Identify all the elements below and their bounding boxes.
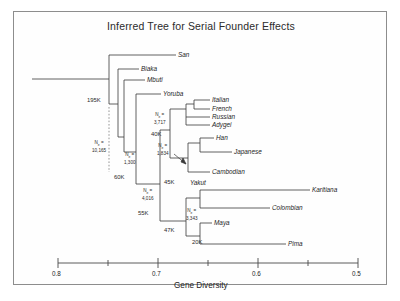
ne-value-4016: 4,016 — [142, 196, 154, 201]
axis-tick-0-6: 0.6 — [252, 271, 261, 277]
tree-plot: Inferred Tree for Serial Founder Effects — [14, 12, 388, 286]
taxon-label-russian: Russian — [212, 114, 235, 120]
taxon-label-japanese: Japanese — [234, 149, 262, 155]
ne-annotation-3717: Ne =3,717 — [154, 112, 166, 125]
divergence-time-40k: 40K — [151, 132, 161, 138]
ne-annotation-3343: Ne =3,343 — [186, 208, 198, 221]
ne-annotation-1834: Ne =1,834 — [157, 143, 169, 156]
ne-annotation-4016: Ne =4,016 — [142, 188, 154, 201]
ne-annotation-1300: Ne =1,300 — [124, 152, 136, 165]
taxon-label-adygei: Adygei — [212, 122, 232, 128]
divergence-time-195k: 195K — [87, 98, 101, 104]
ne-value-3717: 3,717 — [154, 120, 166, 125]
ne-value-3343: 3,343 — [186, 216, 198, 221]
taxon-label-yoruba: Yoruba — [163, 91, 183, 97]
divergence-time-45k: 45K — [164, 180, 174, 186]
taxon-label-maya: Maya — [214, 220, 230, 226]
ne-value-1300: 1,300 — [124, 160, 136, 165]
divergence-time-60k: 60K — [114, 175, 124, 181]
taxon-label-san: San — [178, 52, 189, 58]
axis-title: Gene Diversity — [174, 282, 228, 290]
taxon-label-italian: Italian — [212, 97, 229, 103]
divergence-time-47k: 47K — [164, 228, 174, 234]
taxon-label-mbuti: Mbuti — [147, 77, 163, 83]
ne-value-10165: 10,165 — [92, 148, 106, 153]
taxon-label-colombian: Colombian — [272, 205, 303, 211]
ne-annotation-10165: Ne =10,165 — [92, 140, 106, 153]
figure-frame: Inferred Tree for Serial Founder Effects — [13, 11, 387, 285]
taxon-label-pima: Pima — [288, 241, 303, 247]
taxon-label-karitiana: Karitiana — [312, 187, 337, 193]
taxon-label-cambodian: Cambodian — [212, 169, 245, 175]
taxon-label-french: French — [212, 106, 232, 112]
axis-tick-0-8: 0.8 — [52, 271, 61, 277]
divergence-time-20k: 20K — [192, 240, 202, 246]
axis-tick-0-7: 0.7 — [152, 271, 161, 277]
taxon-label-yakut: Yakut — [190, 180, 206, 186]
axis-tick-0-5: 0.5 — [352, 271, 361, 277]
ne-value-1834: 1,834 — [157, 151, 169, 156]
taxon-label-biaka: Biaka — [141, 66, 157, 72]
divergence-time-55k: 55K — [138, 211, 148, 217]
taxon-label-han: Han — [216, 135, 228, 141]
